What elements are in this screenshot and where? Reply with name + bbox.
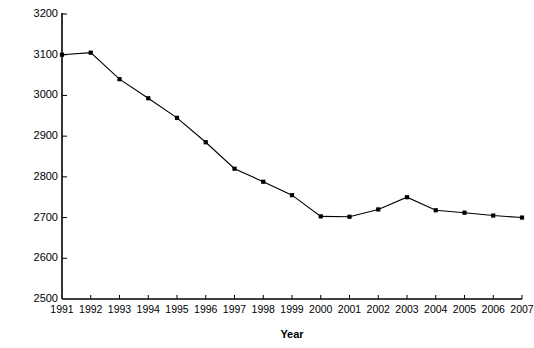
data-point-marker [146,96,150,100]
data-point-marker [434,208,438,212]
data-point-marker [117,77,121,81]
data-point-marker [376,207,380,211]
data-point-marker [204,140,208,144]
data-point-marker [232,167,236,171]
data-point-marker [89,51,93,55]
data-point-marker [175,116,179,120]
data-point-marker [520,215,524,219]
data-point-marker [290,193,294,197]
data-point-marker [405,195,409,199]
data-point-marker [319,214,323,218]
data-point-marker [462,211,466,215]
line-chart: Thousands of Employees Year 250026002700… [0,0,534,348]
data-line [62,53,522,218]
data-point-marker [60,53,64,57]
data-point-marker [261,180,265,184]
data-point-marker [491,213,495,217]
data-point-marker [347,215,351,219]
plot-area [0,0,534,348]
